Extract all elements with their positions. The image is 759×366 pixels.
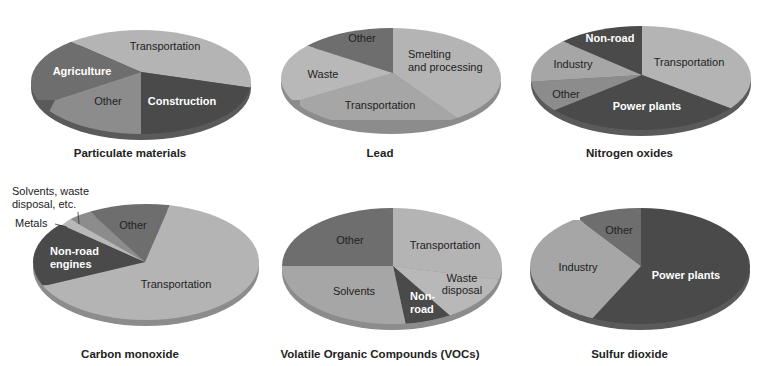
label-transportation: Transportation <box>130 40 201 52</box>
label-power-plants: Power plants <box>652 269 720 281</box>
label-waste-line1: Waste <box>447 272 478 284</box>
chart-nitrogen-oxides: Non-road Industry Transportation Other P… <box>500 0 759 170</box>
label-solvents-line1: Solvents, waste <box>12 185 89 197</box>
caption-sulfur-dioxide: Sulfur dioxide <box>500 348 759 360</box>
label-other: Other <box>552 88 580 100</box>
pie-lead: Other Smelting and processing Waste Tran… <box>250 0 510 170</box>
label-transportation: Transportation <box>654 56 725 68</box>
label-smelting-line1: Smelting <box>408 48 451 60</box>
caption-lead: Lead <box>250 147 510 159</box>
label-transportation: Transportation <box>345 99 416 111</box>
pie-carbon-monoxide: Solvents, waste disposal, etc. Metals Ot… <box>0 170 260 366</box>
label-industry: Industry <box>558 261 598 273</box>
label-waste: Waste <box>308 68 339 80</box>
label-other: Other <box>94 95 122 107</box>
label-other: Other <box>119 219 147 231</box>
label-non-road-line1: Non-road <box>50 245 99 257</box>
pie-sulfur-dioxide: Other Industry Power plants <box>500 170 759 366</box>
pie-particulate-materials: Transportation Agriculture Other Constru… <box>0 0 260 170</box>
chart-vocs: Other Transportation Waste disposal Solv… <box>250 170 510 366</box>
label-metals: Metals <box>15 217 48 229</box>
label-construction: Construction <box>148 95 217 107</box>
label-other: Other <box>605 224 633 236</box>
caption-carbon-monoxide: Carbon monoxide <box>0 348 260 360</box>
label-transportation: Transportation <box>141 278 212 290</box>
label-other: Other <box>336 234 364 246</box>
label-non-road-line2: engines <box>50 258 92 270</box>
label-solvents-line2: disposal, etc. <box>12 198 76 210</box>
caption-vocs: Volatile Organic Compounds (VOCs) <box>250 348 510 360</box>
label-smelting-line2: and processing <box>408 61 483 73</box>
chart-particulate-materials: Transportation Agriculture Other Constru… <box>0 0 260 170</box>
chart-sulfur-dioxide: Other Industry Power plants Sulfur dioxi… <box>500 170 759 366</box>
label-waste-line2: disposal <box>442 284 482 296</box>
chart-lead: Other Smelting and processing Waste Tran… <box>250 0 510 170</box>
label-other: Other <box>348 32 376 44</box>
label-solvents: Solvents <box>333 285 376 297</box>
label-power-plants: Power plants <box>613 100 681 112</box>
label-agriculture: Agriculture <box>53 65 112 77</box>
pie-nitrogen-oxides: Non-road Industry Transportation Other P… <box>500 0 759 170</box>
caption-particulate-materials: Particulate materials <box>0 147 260 159</box>
label-non-road-line1: Non- <box>410 290 435 302</box>
caption-nitrogen-oxides: Nitrogen oxides <box>500 147 759 159</box>
chart-carbon-monoxide: Solvents, waste disposal, etc. Metals Ot… <box>0 170 260 366</box>
label-non-road-line2: road <box>410 303 434 315</box>
label-industry: Industry <box>553 58 593 70</box>
pie-vocs: Other Transportation Waste disposal Solv… <box>250 170 510 366</box>
label-transportation: Transportation <box>410 239 481 251</box>
label-non-road: Non-road <box>586 32 635 44</box>
